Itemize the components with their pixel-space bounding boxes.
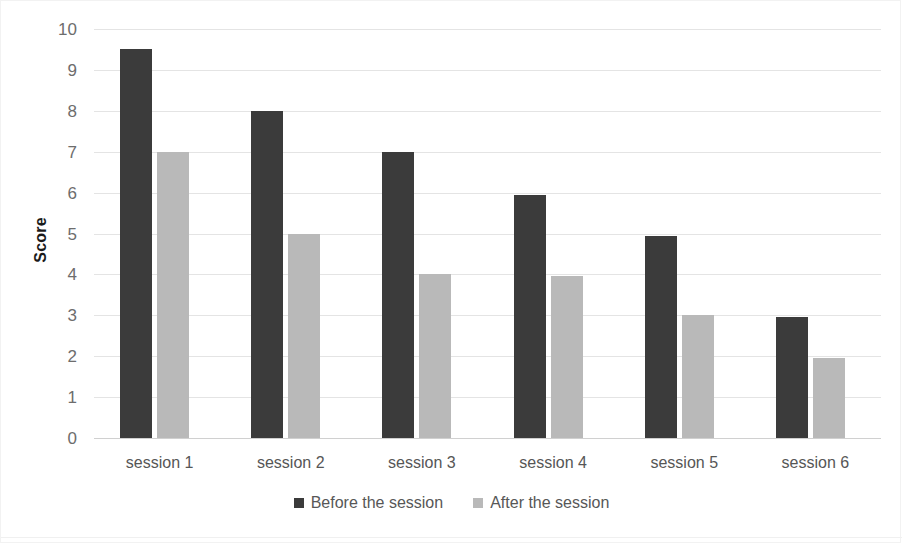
bar-group: [225, 29, 356, 438]
y-tick-label-3: 3: [37, 307, 77, 324]
bar-before[interactable]: [776, 317, 808, 438]
x-tick-label: session 4: [488, 453, 619, 472]
y-tick-label-0: 0: [37, 430, 77, 447]
legend-label: After the session: [490, 495, 609, 511]
bar-before[interactable]: [120, 49, 152, 438]
y-axis-title: Score: [23, 200, 59, 280]
legend-item[interactable]: After the session: [473, 495, 609, 511]
y-tick-label-8: 8: [37, 102, 77, 119]
bottom-divider: [1, 537, 902, 538]
y-tick-label-7: 7: [37, 143, 77, 160]
y-tick-label-2: 2: [37, 348, 77, 365]
y-tick-label-1: 1: [37, 389, 77, 406]
bar-after[interactable]: [419, 274, 451, 438]
y-tick-label-9: 9: [37, 61, 77, 78]
bar-after[interactable]: [288, 234, 320, 439]
bar-group: [750, 29, 881, 438]
bar-before[interactable]: [382, 152, 414, 438]
chart-legend: Before the sessionAfter the session: [1, 495, 902, 511]
bar-group: [94, 29, 225, 438]
legend-swatch-after: [473, 498, 483, 508]
y-tick-label-6: 6: [37, 184, 77, 201]
legend-swatch-before: [294, 498, 304, 508]
bar-before[interactable]: [645, 236, 677, 438]
x-tick-label: session 3: [356, 453, 487, 472]
legend-item[interactable]: Before the session: [294, 495, 444, 511]
legend-label: Before the session: [311, 495, 444, 511]
bar-after[interactable]: [682, 315, 714, 438]
bar-group: [356, 29, 487, 438]
x-tick-label: session 1: [94, 453, 225, 472]
x-axis-labels: session 1session 2session 3session 4sess…: [94, 453, 881, 479]
x-tick-label: session 2: [225, 453, 356, 472]
y-axis-title-label: Score: [32, 217, 50, 262]
bar-after[interactable]: [813, 358, 845, 438]
gridline-0: [94, 438, 881, 439]
bar-after[interactable]: [157, 152, 189, 438]
y-tick-label-10: 10: [37, 21, 77, 38]
bar-after[interactable]: [551, 276, 583, 438]
x-tick-label: session 6: [750, 453, 881, 472]
bar-group: [619, 29, 750, 438]
bar-group: [488, 29, 619, 438]
plot-area: [94, 29, 881, 438]
bar-before[interactable]: [514, 195, 546, 438]
bar-before[interactable]: [251, 111, 283, 438]
x-tick-label: session 5: [619, 453, 750, 472]
